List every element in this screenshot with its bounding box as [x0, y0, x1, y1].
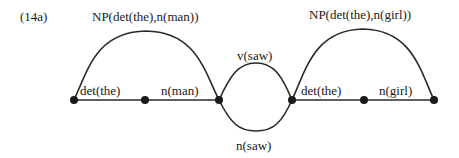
node-3 [288, 96, 296, 104]
node-0 [70, 96, 78, 104]
node-4 [360, 96, 368, 104]
edge-n-girl-label: n(girl) [379, 83, 412, 98]
edge-v-saw-label: v(saw) [237, 48, 272, 63]
edge-np1-label: NP(det(the),n(man)) [92, 9, 199, 24]
node-1 [141, 96, 149, 104]
edge-np2-label: NP(det(the),n(girl)) [309, 7, 411, 22]
edge-n-man-label: n(man) [161, 83, 199, 98]
edge-n-saw-label: n(saw) [236, 138, 271, 153]
edge-n-saw-arc [219, 100, 292, 131]
edge-det2-label: det(the) [301, 83, 341, 98]
edge-det1-label: det(the) [80, 83, 120, 98]
node-2 [215, 96, 223, 104]
example-label: (14a) [20, 9, 47, 24]
node-5 [430, 96, 438, 104]
edge-v-saw-arc [219, 63, 292, 100]
chart-lattice-diagram: (14a) NP(det(the),n(man)) det(the) n(man… [0, 0, 459, 158]
